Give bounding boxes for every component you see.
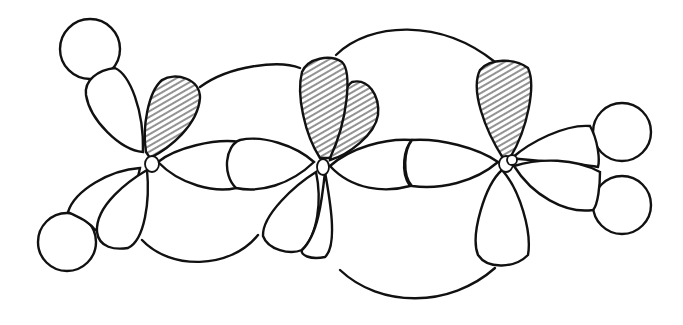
p-orbital-lobe-shaded [477, 61, 531, 158]
nucleus-overlap [507, 155, 517, 165]
pi-overlap-arc-lower-left [142, 235, 258, 262]
pi-overlap-arc-upper-right [336, 30, 495, 62]
nucleus [145, 156, 159, 172]
hydrogen-s-orbital-4 [593, 176, 651, 234]
pi-overlap-arc-upper-left [200, 64, 300, 87]
sigma-lobe [476, 170, 529, 266]
nucleus [317, 159, 329, 175]
carbon-atom-1 [68, 68, 240, 249]
orbital-diagram [0, 0, 683, 325]
carbon-atom-2 [227, 58, 412, 258]
pi-overlap-arc-lower-right [340, 268, 495, 298]
hydrogen-s-orbital-3 [593, 103, 651, 161]
sigma-lobe [405, 140, 498, 187]
sigma-lobe [86, 68, 143, 152]
carbon-atom-3 [405, 61, 600, 266]
sigma-lobe [514, 161, 600, 211]
